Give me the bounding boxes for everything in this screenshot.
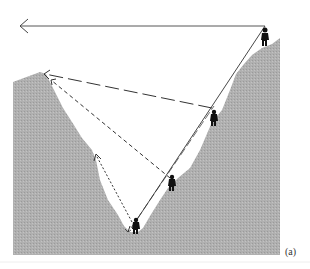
valley-sightline-diagram — [0, 0, 310, 269]
sightline-solid-horizontal — [20, 19, 265, 33]
figure-label: (a) — [285, 246, 296, 257]
terrain-valley — [13, 38, 280, 255]
sightline-long-dashed — [44, 70, 212, 108]
